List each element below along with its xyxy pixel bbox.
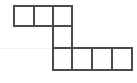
grid-square-bottom-row-col-4 — [92, 48, 112, 70]
grid-square-bottom-row-col-5 — [112, 48, 132, 70]
polyomino-diagram — [0, 0, 137, 83]
grid-square-top-row-col-1 — [34, 6, 53, 26]
grid-square-bottom-row-col-2 — [53, 48, 72, 70]
grid-square-top-row-col-2 — [53, 6, 72, 26]
polyomino-figure-canvas — [0, 0, 137, 83]
grid-square-top-row-col-0 — [14, 6, 34, 26]
grid-square-bottom-row-col-3 — [72, 48, 92, 70]
grid-square-middle-row-col-2 — [53, 26, 72, 48]
